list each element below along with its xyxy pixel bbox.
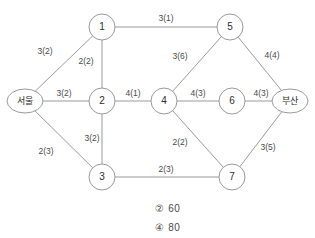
answer-choice-value: 60 bbox=[168, 203, 180, 214]
edge-n5-busan bbox=[238, 37, 281, 90]
edge-label-n2-n4: 4(1) bbox=[125, 88, 140, 98]
network-diagram: 서울1234567부산 3(2)3(2)2(3)2(2)3(1)3(2)4(1)… bbox=[0, 0, 315, 238]
node-label-n4: 4 bbox=[161, 95, 167, 106]
edge-n4-n5 bbox=[173, 37, 222, 92]
answer-choice-④[interactable]: ④80 bbox=[155, 222, 180, 233]
edge-n7-busan bbox=[240, 112, 282, 167]
edge-label-n4-n6: 4(3) bbox=[190, 88, 205, 98]
edge-label-n6-busan: 4(3) bbox=[253, 88, 268, 98]
node-label-busan: 부산 bbox=[282, 96, 298, 106]
edge-label-seoul-n3: 2(3) bbox=[38, 146, 53, 156]
edge-label-n5-busan: 4(4) bbox=[264, 50, 279, 60]
node-label-seoul: 서울 bbox=[17, 96, 33, 106]
edge-label-n1-n5: 3(1) bbox=[158, 13, 173, 23]
node-label-n2: 2 bbox=[99, 95, 105, 106]
edge-label-n3-n7: 2(3) bbox=[158, 164, 173, 174]
edge-label-n1-n2: 2(2) bbox=[78, 56, 93, 66]
answer-choice-marker: ② bbox=[155, 203, 164, 214]
node-label-n5: 5 bbox=[227, 21, 233, 32]
answer-choice-②[interactable]: ②60 bbox=[155, 203, 180, 214]
edge-label-n4-n7: 2(2) bbox=[172, 137, 187, 147]
edge-label-n4-n5: 3(6) bbox=[172, 51, 187, 61]
node-label-n1: 1 bbox=[99, 21, 105, 32]
node-label-n7: 7 bbox=[229, 171, 235, 182]
answer-choice-marker: ④ bbox=[155, 222, 164, 233]
node-label-n6: 6 bbox=[229, 95, 235, 106]
node-label-n3: 3 bbox=[99, 171, 105, 182]
answer-choice-value: 80 bbox=[168, 222, 180, 233]
edge-label-n2-n3: 3(2) bbox=[84, 133, 99, 143]
edge-label-seoul-n2: 3(2) bbox=[56, 88, 71, 98]
edge-label-n7-busan: 3(5) bbox=[260, 142, 275, 152]
edge-label-seoul-n1: 3(2) bbox=[37, 46, 52, 56]
